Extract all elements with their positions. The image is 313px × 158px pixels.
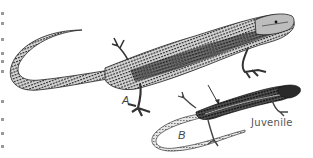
label-adult-a: A <box>122 95 129 106</box>
label-juvenile-b: B <box>178 130 185 141</box>
arrow-adult-to-juvenile <box>208 85 220 105</box>
lizard-illustration: A B Juvenile <box>0 0 313 158</box>
caption-juvenile: Juvenile <box>251 118 293 128</box>
lizard-drawing <box>0 0 313 158</box>
